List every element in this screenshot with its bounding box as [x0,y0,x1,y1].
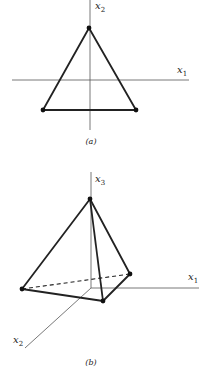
tetrahedron-front-edge [90,199,103,301]
vertex-back-b [128,272,133,277]
axis-x2-label-b: x2 [13,334,23,348]
axis-x3-label-b: x3 [95,173,105,187]
vertex-top [87,26,92,31]
tetrahedron-edges [22,199,130,301]
axis-x1-label-b: x1 [188,271,198,285]
axis-x2-label-a: x2 [95,0,105,14]
caption-b: (b) [85,358,96,367]
vertex-left-b [20,287,25,292]
axis-x1-label-a: x1 [177,64,187,78]
caption-a: (a) [85,137,96,146]
vertex-apex [88,197,93,202]
vertex-left [41,108,46,113]
vertex-right [134,108,139,113]
vertex-front-b [101,299,106,304]
hidden-edge [22,274,130,289]
triangle [43,28,136,110]
figure-canvas: x2 x1 (a) x3 x1 x2 (b) [0,0,207,370]
figure-b: x3 x1 x2 (b) [13,172,199,367]
figure-a: x2 x1 (a) [12,0,189,146]
